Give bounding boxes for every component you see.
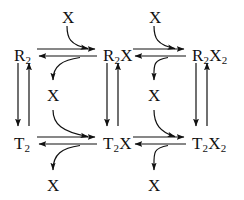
species-label-r2x2: R2X2 <box>192 47 227 64</box>
arrow-x-release-mid-left <box>53 58 80 81</box>
species-label-t2x2: T2X2 <box>192 135 226 152</box>
ligand-label-x-mid-right: X <box>148 87 160 104</box>
arrow-layer <box>0 0 244 200</box>
ligand-label-x-mid-left: X <box>47 87 59 104</box>
arrow-x-uptake-bottom-left <box>53 110 88 137</box>
arrow-x-release-bottom-right <box>154 146 168 171</box>
species-label-t2: T2 <box>14 135 30 152</box>
species-label-r2x: R2X <box>103 47 133 64</box>
reaction-scheme-diagram: R2 R2X R2X2 T2 T2X T2X2 X X X X X X <box>0 0 244 200</box>
species-label-r2: R2 <box>14 47 31 64</box>
ligand-label-x-bottom-right: X <box>148 177 160 194</box>
ligand-label-x-top-left: X <box>62 9 74 26</box>
arrow-x-binding-left <box>67 26 88 49</box>
ligand-label-x-bottom-left: X <box>47 177 59 194</box>
ligand-label-x-top-right: X <box>149 9 161 26</box>
species-label-t2x: T2X <box>103 135 132 152</box>
arrow-x-release-mid-right <box>154 58 168 81</box>
arrow-x-release-bottom-left <box>53 146 80 171</box>
arrow-x-binding-right <box>154 26 175 49</box>
arrow-x-uptake-bottom-right <box>154 110 175 137</box>
